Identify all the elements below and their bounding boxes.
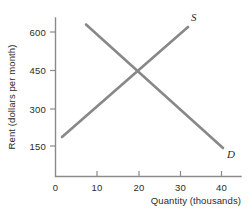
y-axis-title: Rent (dollars per month) (6, 45, 17, 150)
supply-curve-label: S (191, 11, 197, 23)
chart-canvas: 600 450 300 150 0 10 20 30 40 S D Quanti… (0, 0, 252, 217)
demand-curve-label: D (226, 148, 235, 160)
y-tick-label-300: 300 (30, 104, 46, 115)
x-tick-label-0: 0 (53, 182, 58, 193)
y-tick-label-600: 600 (30, 27, 46, 38)
x-tick-label-10: 10 (92, 182, 103, 193)
y-tick-label-450: 450 (30, 65, 46, 76)
supply-demand-chart: 600 450 300 150 0 10 20 30 40 S D Quanti… (0, 0, 252, 217)
x-tick-label-30: 30 (175, 182, 186, 193)
supply-curve (62, 27, 188, 137)
y-tick-label-150: 150 (30, 141, 46, 152)
demand-curve (86, 25, 223, 149)
x-tick-label-40: 40 (216, 182, 227, 193)
x-axis-title: Quantity (thousands) (151, 195, 241, 206)
x-tick-label-20: 20 (134, 182, 145, 193)
